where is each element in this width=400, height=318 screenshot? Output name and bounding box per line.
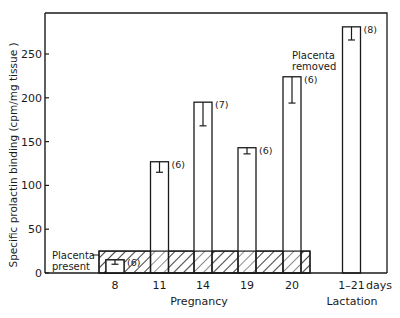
plot-frame <box>45 13 387 273</box>
y-tick-label: 50 <box>28 223 42 236</box>
y-tick-label: 200 <box>21 92 42 105</box>
hatched-overlay <box>99 251 310 273</box>
y-tick-label: 100 <box>21 179 42 192</box>
x-tick-label: 14 <box>196 279 210 292</box>
bar-20: (6) <box>283 74 317 273</box>
placenta-present-label-1: Placenta <box>52 250 95 261</box>
x-tick-label: 11 <box>153 279 167 292</box>
y-tick-label: 150 <box>21 136 42 149</box>
lactation-group-label: Lactation <box>326 295 377 308</box>
n-label: (6) <box>259 145 272 156</box>
bar-14: (7) <box>194 99 228 273</box>
bar-chart: (6)(6)(7)(6)(6)(8) 050100150200250 81114… <box>0 0 400 318</box>
y-axis-label: Specific prolactin binding (cpm/mg tissu… <box>7 42 19 267</box>
x-axis-labels: 8111419201–21 <box>112 279 365 292</box>
bar-rect <box>283 77 301 273</box>
n-label: (6) <box>172 159 185 170</box>
frame-top-right <box>45 13 387 273</box>
n-label: (6) <box>304 74 317 85</box>
y-tick-label: 0 <box>35 267 42 280</box>
placenta-removed-label-1: Placenta <box>292 50 335 61</box>
placenta-removed-label-2: removed <box>292 61 336 72</box>
bar-rect <box>194 102 212 273</box>
x-tick-label: 8 <box>112 279 119 292</box>
pregnancy-group-label: Pregnancy <box>170 295 228 308</box>
n-label: (8) <box>364 24 377 35</box>
placenta-present-label-2: present <box>52 261 90 272</box>
n-label: (7) <box>215 99 228 110</box>
y-tick-label: 250 <box>21 48 42 61</box>
x-tick-label: 20 <box>285 279 299 292</box>
bar-rect <box>343 27 361 273</box>
days-unit-label: days <box>366 279 392 292</box>
x-tick-label: 1–21 <box>338 279 365 292</box>
bar-1–21: (8) <box>343 24 377 273</box>
x-tick-label: 19 <box>240 279 254 292</box>
